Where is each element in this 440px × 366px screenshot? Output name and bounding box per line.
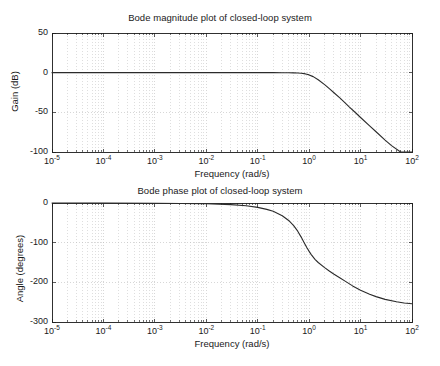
x-tick-label: 100 bbox=[292, 156, 326, 166]
x-tick-mantissa: 10 bbox=[147, 326, 157, 336]
y-tick-label: -100 bbox=[14, 146, 48, 156]
bode-magnitude-plot: Bode magnitude plot of closed-loop syste… bbox=[0, 0, 440, 183]
x-tick-exponent: -2 bbox=[208, 324, 214, 331]
x-tick-mantissa: 10 bbox=[198, 156, 208, 166]
x-tick-label: 102 bbox=[395, 156, 429, 166]
y-tick-label: -100 bbox=[14, 237, 48, 247]
x-tick-mantissa: 10 bbox=[198, 326, 208, 336]
x-tick-label: 100 bbox=[292, 326, 326, 336]
x-tick-exponent: -5 bbox=[54, 324, 60, 331]
magnitude-x-axis-label: Frequency (rad/s) bbox=[52, 168, 412, 179]
x-tick-label: 10-5 bbox=[35, 156, 69, 166]
x-tick-label: 10-4 bbox=[86, 326, 120, 336]
x-tick-label: 101 bbox=[344, 156, 378, 166]
x-tick-label: 102 bbox=[395, 326, 429, 336]
x-tick-mantissa: 10 bbox=[44, 326, 54, 336]
bode-phase-plot: Bode phase plot of closed-loop system An… bbox=[0, 183, 440, 366]
x-tick-exponent: -3 bbox=[157, 324, 163, 331]
x-tick-exponent: -2 bbox=[208, 154, 214, 161]
x-tick-exponent: 1 bbox=[364, 324, 368, 331]
y-tick-label: 50 bbox=[14, 27, 48, 37]
x-tick-exponent: -3 bbox=[157, 154, 163, 161]
x-tick-exponent: -1 bbox=[260, 154, 266, 161]
x-tick-label: 10-3 bbox=[138, 326, 172, 336]
x-tick-mantissa: 10 bbox=[354, 156, 364, 166]
x-tick-label: 10-1 bbox=[241, 156, 275, 166]
y-tick-label: 0 bbox=[14, 197, 48, 207]
x-tick-exponent: -4 bbox=[106, 154, 112, 161]
x-tick-exponent: -1 bbox=[260, 324, 266, 331]
x-tick-exponent: 0 bbox=[312, 154, 316, 161]
y-tick-label: 0 bbox=[14, 67, 48, 77]
x-tick-label: 10-2 bbox=[189, 156, 223, 166]
y-tick-label: -200 bbox=[14, 276, 48, 286]
x-tick-exponent: 2 bbox=[415, 154, 419, 161]
x-tick-mantissa: 10 bbox=[302, 326, 312, 336]
x-tick-exponent: 1 bbox=[364, 154, 368, 161]
y-tick-label: -300 bbox=[14, 316, 48, 326]
y-tick-label: -50 bbox=[14, 106, 48, 116]
x-tick-label: 10-5 bbox=[35, 326, 69, 336]
x-tick-exponent: -5 bbox=[54, 154, 60, 161]
x-tick-mantissa: 10 bbox=[147, 156, 157, 166]
x-tick-mantissa: 10 bbox=[354, 326, 364, 336]
phase-x-axis-label: Frequency (rad/s) bbox=[52, 338, 412, 349]
x-tick-label: 101 bbox=[344, 326, 378, 336]
bode-figure: Bode magnitude plot of closed-loop syste… bbox=[0, 0, 440, 366]
x-tick-label: 10-3 bbox=[138, 156, 172, 166]
x-tick-mantissa: 10 bbox=[250, 326, 260, 336]
x-tick-mantissa: 10 bbox=[405, 326, 415, 336]
x-tick-mantissa: 10 bbox=[405, 156, 415, 166]
phase-y-axis-label: Angle (degrees) bbox=[14, 219, 25, 319]
x-tick-label: 10-2 bbox=[189, 326, 223, 336]
x-tick-mantissa: 10 bbox=[96, 326, 106, 336]
x-tick-mantissa: 10 bbox=[44, 156, 54, 166]
x-tick-mantissa: 10 bbox=[302, 156, 312, 166]
x-tick-exponent: 0 bbox=[312, 324, 316, 331]
x-tick-exponent: -4 bbox=[106, 324, 112, 331]
x-tick-exponent: 2 bbox=[415, 324, 419, 331]
x-tick-label: 10-4 bbox=[86, 156, 120, 166]
x-tick-mantissa: 10 bbox=[96, 156, 106, 166]
x-tick-label: 10-1 bbox=[241, 326, 275, 336]
x-tick-mantissa: 10 bbox=[250, 156, 260, 166]
